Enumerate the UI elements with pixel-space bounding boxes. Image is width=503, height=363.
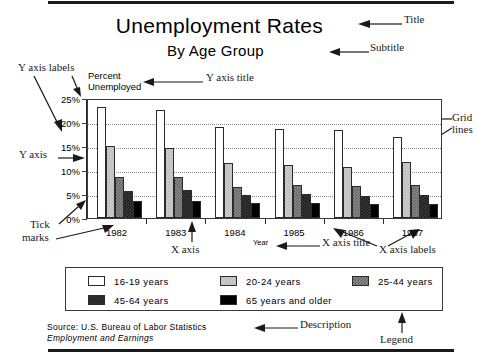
legend-swatch-16-19-years xyxy=(88,276,105,286)
x-tick-mark xyxy=(324,219,325,224)
x-tick-label: 1987 xyxy=(402,227,423,238)
x-tick-label: 1984 xyxy=(224,227,245,238)
annotation-y-axis-title: Y axis title xyxy=(206,71,254,83)
annotation-description: Description xyxy=(300,318,351,330)
bar-group xyxy=(393,100,438,218)
annotation-y-axis: Y axis xyxy=(19,148,47,160)
y-tick-label: 15% xyxy=(61,142,80,153)
bar[interactable] xyxy=(115,177,124,218)
legend-row: 16-19 years 20-24 years 25-44 years xyxy=(66,272,442,290)
legend-swatch-65-years-and-older xyxy=(220,295,237,305)
legend-label-16-19-years: 16-19 years xyxy=(114,276,169,287)
bar[interactable] xyxy=(106,146,115,218)
bar[interactable] xyxy=(352,186,361,218)
legend: 16-19 years 20-24 years 25-44 years 45-6… xyxy=(65,267,443,311)
annotation-tick-marks-line2: marks xyxy=(22,231,49,243)
plot-area xyxy=(87,99,442,219)
x-tick-mark xyxy=(146,219,147,224)
annotation-grid-lines-line2: lines xyxy=(452,123,473,135)
x-tick-label: 1985 xyxy=(284,227,305,238)
legend-swatch-20-24-years xyxy=(220,276,237,286)
y-tick-mark xyxy=(82,99,87,100)
y-tick-label: 25% xyxy=(61,94,80,105)
source-note: Source: U.S. Bureau of Labor Statistics … xyxy=(47,322,207,345)
bar[interactable] xyxy=(251,203,260,218)
annotation-legend: Legend xyxy=(380,333,413,345)
legend-row: 45-64 years 65 years and older xyxy=(66,291,442,309)
bottom-rule xyxy=(48,349,454,352)
bar[interactable] xyxy=(284,165,293,218)
annotation-subtitle: Subtitle xyxy=(370,41,404,53)
bar[interactable] xyxy=(370,204,379,218)
bar[interactable] xyxy=(293,185,302,218)
bar[interactable] xyxy=(233,187,242,218)
legend-label-65-years-and-older: 65 years and older xyxy=(246,295,332,306)
y-tick-label: 5% xyxy=(66,190,80,201)
bar[interactable] xyxy=(402,162,411,218)
x-tick-mark xyxy=(265,219,266,224)
bar[interactable] xyxy=(302,194,311,218)
legend-item-25-44-years[interactable]: 25-44 years xyxy=(352,272,433,290)
legend-item-45-64-years[interactable]: 45-64 years xyxy=(88,291,220,309)
x-tick-label: 1983 xyxy=(165,227,186,238)
plot-inner xyxy=(88,100,441,218)
legend-label-45-64-years: 45-64 years xyxy=(114,295,169,306)
bar[interactable] xyxy=(275,129,284,218)
y-tick-mark xyxy=(82,219,87,220)
x-axis-title: Year xyxy=(253,238,268,247)
chart-title: Unemployment Rates xyxy=(0,14,503,38)
bar[interactable] xyxy=(183,190,192,218)
legend-item-20-24-years[interactable]: 20-24 years xyxy=(220,272,352,290)
source-line2: Employment and Earnings xyxy=(47,333,207,344)
annotation-title: Title xyxy=(404,13,424,25)
annotation-grid-lines-line1: Grid xyxy=(452,111,472,123)
bar[interactable] xyxy=(133,201,142,218)
x-tick-mark xyxy=(383,219,384,224)
annotation-y-axis-labels: Y axis labels xyxy=(18,61,74,73)
legend-item-65-years-and-older[interactable]: 65 years and older xyxy=(220,291,332,309)
source-line1: Source: U.S. Bureau of Labor Statistics xyxy=(47,322,207,333)
bar[interactable] xyxy=(429,204,438,218)
bar-group xyxy=(334,100,379,218)
bar[interactable] xyxy=(124,191,133,218)
y-axis-title-leader-line xyxy=(141,76,205,88)
bar[interactable] xyxy=(156,110,165,218)
x-tick-label: 1986 xyxy=(343,227,364,238)
chart-subtitle-text: By Age Group xyxy=(167,42,264,59)
top-rule xyxy=(48,1,454,4)
x-axis-title-leader-line xyxy=(274,240,322,252)
legend-item-16-19-years[interactable]: 16-19 years xyxy=(88,272,220,290)
bar[interactable] xyxy=(343,167,352,218)
bar-group xyxy=(97,100,142,218)
bar[interactable] xyxy=(334,130,343,218)
bar[interactable] xyxy=(361,196,370,218)
y-tick-mark xyxy=(82,123,87,124)
bar[interactable] xyxy=(242,195,251,218)
bar[interactable] xyxy=(393,137,402,218)
annotation-x-axis-labels: X axis labels xyxy=(379,243,436,255)
subtitle-leader-line xyxy=(327,46,371,58)
legend-label-20-24-years: 20-24 years xyxy=(246,276,301,287)
bar[interactable] xyxy=(174,177,183,218)
bar[interactable] xyxy=(420,195,429,218)
legend-swatch-45-64-years xyxy=(88,295,105,305)
bar-group xyxy=(275,100,320,218)
x-tick-mark xyxy=(205,219,206,224)
annotation-x-axis: X axis xyxy=(171,243,199,255)
chart-subtitle: By Age Group xyxy=(0,42,503,59)
bar[interactable] xyxy=(311,203,320,218)
bar[interactable] xyxy=(192,201,201,218)
chart-title-text: Unemployment Rates xyxy=(116,14,323,38)
bar[interactable] xyxy=(165,148,174,218)
x-tick-label: 1982 xyxy=(106,227,127,238)
bar[interactable] xyxy=(97,107,106,218)
bar[interactable] xyxy=(215,127,224,218)
chart-figure: Unemployment Rates By Age Group Title Su… xyxy=(0,0,503,363)
legend-label-25-44-years: 25-44 years xyxy=(378,276,433,287)
y-tick-label: 0% xyxy=(66,214,80,225)
bar[interactable] xyxy=(411,185,420,218)
y-axis-leader-line xyxy=(58,152,86,164)
y-tick-label: 10% xyxy=(61,166,80,177)
bar[interactable] xyxy=(224,163,233,218)
y-tick-mark xyxy=(82,147,87,148)
